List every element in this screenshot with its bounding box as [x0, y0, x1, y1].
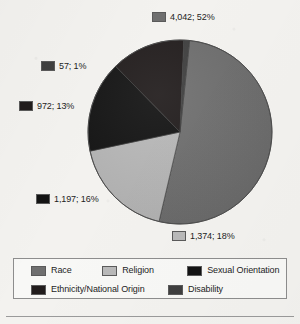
pie-label-disability: 57; 1%	[41, 61, 86, 71]
legend-item-religion: Religion	[102, 266, 187, 276]
page-divider-rule	[6, 316, 294, 317]
pie-label-text-ethnicity: 972; 13%	[37, 102, 74, 111]
pie-label-religion: 1,374; 18%	[172, 231, 235, 241]
legend-swatch-sexual-orientation	[187, 266, 202, 276]
pie-label-race: 4,042; 52%	[152, 12, 215, 22]
legend-item-sexual-orientation: Sexual Orientation	[187, 266, 286, 276]
legend-swatch-race	[31, 266, 46, 276]
pie-outline	[88, 40, 272, 224]
legend-swatch-ethnicity	[31, 285, 46, 295]
pie-label-text-sexual-orientation: 1,197; 16%	[54, 195, 99, 204]
pie-label-text-race: 4,042; 52%	[170, 13, 215, 22]
pie-label-swatch-disability	[41, 61, 55, 71]
legend-item-ethnicity: Ethnicity/National Origin	[31, 285, 168, 295]
pie-label-text-disability: 57; 1%	[59, 62, 86, 71]
pie-label-swatch-religion	[172, 231, 186, 241]
legend-label-race: Race	[51, 266, 72, 275]
legend-row-1: Race Religion Sexual Orientation	[14, 261, 286, 280]
legend-row-2: Ethnicity/National Origin Disability	[14, 280, 286, 299]
legend-swatch-religion	[102, 266, 117, 276]
legend-label-disability: Disability	[188, 285, 223, 294]
pie-label-swatch-race	[152, 12, 166, 22]
chart-legend: Race Religion Sexual Orientation Ethnici…	[13, 258, 287, 299]
legend-label-ethnicity: Ethnicity/National Origin	[51, 285, 145, 294]
legend-item-race: Race	[31, 266, 102, 276]
legend-label-religion: Religion	[122, 266, 154, 275]
legend-swatch-disability	[168, 285, 183, 295]
pie-chart-graphic	[0, 0, 300, 258]
pie-label-swatch-ethnicity	[19, 101, 33, 111]
legend-label-sexual-orientation: Sexual Orientation	[207, 266, 279, 275]
pie-label-swatch-sexual-orientation	[36, 194, 50, 204]
pie-label-text-religion: 1,374; 18%	[190, 232, 235, 241]
legend-item-disability: Disability	[168, 285, 268, 295]
pie-chart-figure: 4,042; 52% 57; 1% 972; 13% 1,197; 16% 1,…	[0, 0, 300, 258]
pie-label-sexual-orientation: 1,197; 16%	[36, 194, 99, 204]
pie-label-ethnicity: 972; 13%	[19, 101, 74, 111]
